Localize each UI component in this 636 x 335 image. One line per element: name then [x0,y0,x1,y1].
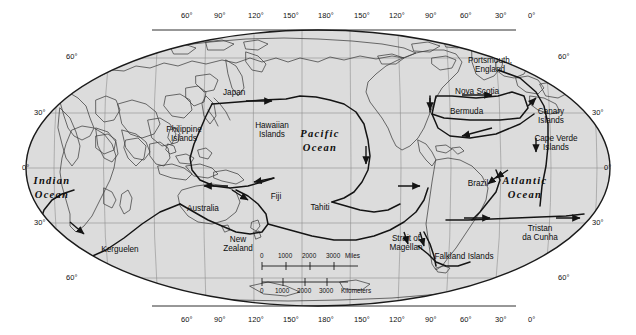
lon-label-bottom-9: 30° [495,316,507,324]
lon-label-bottom-10: 0° [528,316,535,324]
place-label-philippine-islands: PhilippineIslands [154,126,214,143]
scale-km-unit: Kilometers [341,288,371,295]
place-label-falkland-islands: Falkland Islands [424,253,504,262]
scale-miles-tick-3: 3000 [326,253,340,260]
scale-km-tick-0: 0 [260,288,264,295]
place-label-nova-scotia: Nova Scotia [455,88,515,97]
map-canvas [0,0,636,335]
place-label-fiji: Fiji [264,193,288,202]
scale-km-tick-1: 1000 [275,288,289,295]
lon-label-top-2: 120° [248,12,264,20]
lon-label-bottom-1: 90° [214,316,226,324]
lon-label-top-3: 150° [283,12,299,20]
lat-label-right-4: 60° [558,274,570,282]
lon-label-top-6: 120° [389,12,405,20]
place-label-canary-islands: CanaryIslands [523,108,579,125]
scale-miles-unit: Miles [345,253,360,260]
lon-label-top-7: 90° [425,12,437,20]
world-map-figure: 60° 90° 120° 150° 180° 150° 120° 90° 60°… [0,0,636,335]
lat-label-right-3: 30° [592,219,604,227]
lon-label-bottom-4: 180° [318,316,334,324]
scale-miles-tick-1: 1000 [278,253,292,260]
place-label-brazil: Brazil [460,180,496,189]
place-label-portsmouth-england: Portsmouth,England [455,57,525,74]
lon-label-bottom-7: 90° [425,316,437,324]
lon-label-bottom-0: 60° [181,316,193,324]
scale-km-tick-2: 2000 [297,288,311,295]
place-label-japan: Japan [223,89,263,98]
lon-label-top-1: 90° [214,12,226,20]
lat-label-left-1: 30° [34,109,46,117]
lon-label-bottom-2: 120° [248,316,264,324]
scale-km-tick-3: 3000 [319,288,333,295]
lon-label-bottom-5: 150° [354,316,370,324]
scale-miles-tick-2: 2000 [302,253,316,260]
place-label-cape-verde-islands: Cape VerdeIslands [522,135,590,152]
lon-label-top-4: 180° [318,12,334,20]
ocean-label-atlantic: AtlanticOcean [485,174,565,202]
lat-label-right-2: 0° [604,164,611,172]
lat-label-right-0: 60° [558,53,570,61]
lon-label-top-10: 0° [528,12,535,20]
ocean-label-indian: IndianOcean [12,174,92,202]
place-label-bermuda: Bermuda [450,108,498,117]
place-label-australia: Australia [177,205,229,214]
place-label-tristan-da-cunha: Tristanda Cunha [514,225,566,242]
place-label-tahiti: Tahiti [304,204,336,213]
lon-label-top-9: 30° [495,12,507,20]
lon-label-bottom-6: 120° [389,316,405,324]
place-label-strait-of-magellan: Strait ofMagellan [378,235,434,252]
lat-label-left-3: 30° [34,219,46,227]
lon-label-top-8: 60° [460,12,472,20]
lon-label-bottom-3: 150° [283,316,299,324]
lat-label-right-1: 30° [592,109,604,117]
place-label-new-zealand: NewZealand [216,236,260,253]
lat-label-left-0: 60° [66,53,78,61]
lon-label-top-0: 60° [181,12,193,20]
scale-miles-tick-0: 0 [260,253,264,260]
lat-label-left-4: 60° [66,274,78,282]
place-label-kerguelen: Kerguelen [94,246,146,255]
lat-label-left-2: 0° [22,164,29,172]
lon-label-top-5: 150° [354,12,370,20]
place-label-hawaiian-islands: HawaiianIslands [242,122,302,139]
lon-label-bottom-8: 60° [460,316,472,324]
